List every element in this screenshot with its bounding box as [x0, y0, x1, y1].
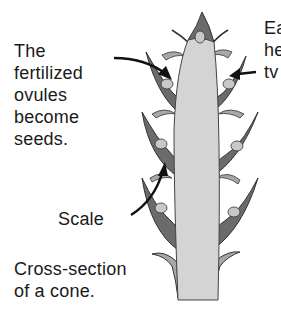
seeds-label-line: The [14, 40, 83, 62]
right-cutoff-label: Ea he tv [264, 17, 281, 83]
caption-line: of a cone. [14, 280, 127, 302]
cone-axis [174, 38, 219, 300]
right-cutoff-line: he [264, 39, 281, 61]
seeds-label-line: seeds. [14, 128, 83, 150]
right-cutoff-line: tv [264, 61, 281, 83]
seeds-label-line: fertilized [14, 62, 83, 84]
seeds-label-line: become [14, 106, 83, 128]
seeds-label-line: ovules [14, 84, 83, 106]
right-cutoff-line: Ea [264, 17, 281, 39]
caption-line: Cross-section [14, 258, 127, 280]
seeds-label: The fertilized ovules become seeds. [14, 40, 83, 150]
caption: Cross-section of a cone. [14, 258, 127, 302]
scale-label: Scale [58, 208, 104, 230]
